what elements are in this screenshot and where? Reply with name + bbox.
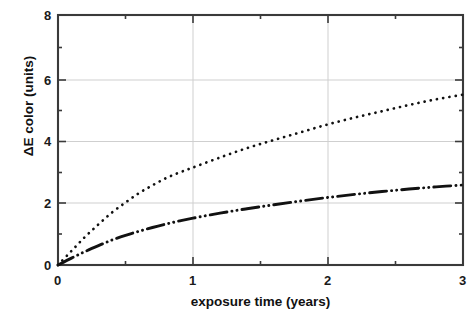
y-tick-label-8: 8 [44,9,51,22]
series-upper-curve [58,95,463,265]
x-tick-label-1: 1 [189,274,196,287]
axis-ticks [58,15,463,265]
x-tick-label-3: 3 [459,274,466,287]
series-lower-curve [58,185,463,265]
axis-frame [58,15,463,265]
y-tick-label-6: 6 [44,74,51,87]
plot-canvas [0,0,474,318]
data-series [58,95,463,265]
chart-figure: 0 1 2 3 0 2 4 6 8 ΔE color (units) expos… [0,0,474,318]
y-tick-label-2: 2 [44,197,51,210]
y-tick-label-4: 4 [44,135,51,148]
y-tick-label-0: 0 [44,259,51,272]
x-tick-label-2: 2 [324,274,331,287]
x-axis-title: exposure time (years) [191,294,331,309]
x-tick-label-0: 0 [54,274,61,287]
y-axis-title: ΔE color (units) [21,56,36,156]
gridlines [58,15,463,265]
y-axis-title-wrap: ΔE color (units) [18,16,38,196]
x-axis-title-wrap: exposure time (years) [58,292,463,310]
